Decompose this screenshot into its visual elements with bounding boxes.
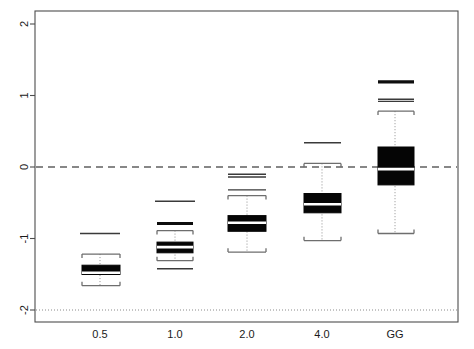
- y-tick-label-1: 1: [18, 92, 30, 98]
- box-group-gg: [378, 82, 414, 234]
- boxplot-figure: 2 1 0 -1 -2: [0, 0, 474, 349]
- x-axis-tick-labels: 0.5 1.0 2.0 4.0 GG: [92, 328, 403, 340]
- whisker-cap-upper: [82, 254, 120, 258]
- box-iqr: [378, 147, 414, 185]
- y-axis-ticks: [30, 24, 35, 310]
- y-tick-label-2: 2: [18, 21, 30, 27]
- box-group-1-0: [155, 201, 195, 268]
- y-tick-label-0: 0: [18, 164, 30, 170]
- x-tick-label-1-0: 1.0: [167, 328, 182, 340]
- box-group-0-5: [80, 234, 120, 286]
- y-tick-label-minus2: -2: [18, 305, 30, 315]
- x-tick-label-2-0: 2.0: [239, 328, 254, 340]
- whisker-cap-lower: [157, 257, 193, 261]
- x-tick-label-0-5: 0.5: [92, 328, 107, 340]
- boxplot-canvas: 2 1 0 -1 -2: [0, 0, 474, 349]
- y-axis-tick-labels: 2 1 0 -1 -2: [18, 21, 30, 315]
- box-group-2-0: [228, 174, 266, 252]
- whisker-cap-upper: [378, 111, 414, 115]
- y-tick-label-minus1: -1: [18, 234, 30, 244]
- x-tick-label-4-0: 4.0: [314, 328, 329, 340]
- box-group-4-0: [304, 143, 341, 241]
- x-tick-label-gg: GG: [386, 328, 403, 340]
- whisker-cap-lower: [378, 230, 414, 234]
- whisker-cap-lower: [82, 282, 120, 286]
